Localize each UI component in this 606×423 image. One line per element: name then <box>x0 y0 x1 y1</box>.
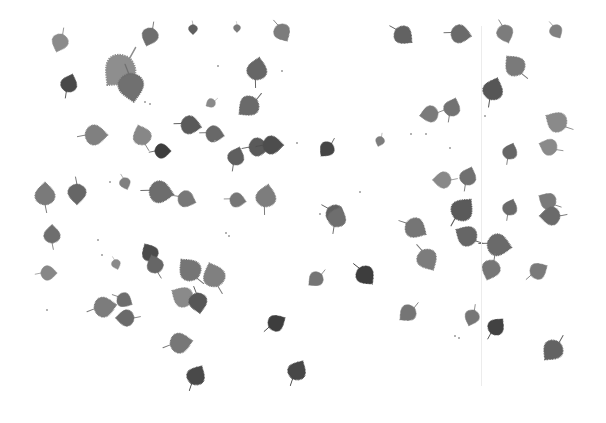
speck <box>225 232 227 234</box>
speck <box>144 101 146 103</box>
speck <box>449 147 451 149</box>
speck <box>410 133 412 135</box>
speck <box>46 309 48 311</box>
leaves-photo <box>0 0 606 423</box>
speck <box>149 103 151 105</box>
speck <box>101 254 103 256</box>
speck <box>281 70 283 72</box>
speck <box>484 115 486 117</box>
speck <box>454 335 456 337</box>
speck <box>228 235 230 237</box>
speck <box>296 142 298 144</box>
speck <box>97 239 99 241</box>
speck <box>109 181 111 183</box>
speck <box>319 213 321 215</box>
speck <box>214 140 216 142</box>
speck <box>425 133 427 135</box>
speck <box>217 65 219 67</box>
photo-seam-line <box>481 26 482 386</box>
speck <box>359 191 361 193</box>
speck <box>458 337 460 339</box>
